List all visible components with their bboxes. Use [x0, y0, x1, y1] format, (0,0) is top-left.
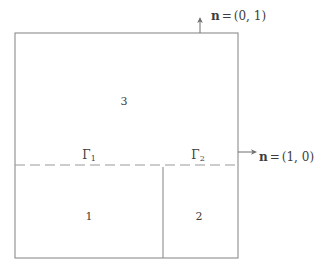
normal-vector-label-right: n=(1, 0) — [259, 151, 314, 163]
gamma-subscript: 1 — [90, 154, 95, 163]
normal-value: (1, 0) — [282, 150, 314, 164]
normal-value: (0, 1) — [234, 9, 266, 23]
region-label-3: 3 — [121, 96, 128, 107]
equals-sign: = — [220, 9, 234, 23]
normal-arrow-right — [238, 149, 257, 155]
normal-symbol: n — [259, 150, 268, 164]
outer-domain-boundary — [15, 33, 238, 258]
normal-symbol: n — [211, 9, 220, 23]
boundary-label-gamma-1: Γ1 — [82, 149, 96, 163]
region-label-1: 1 — [86, 211, 93, 222]
normal-vector-label-top: n=(0, 1) — [211, 10, 266, 22]
region-label-2: 2 — [196, 211, 203, 222]
normal-arrow-top — [197, 17, 203, 33]
equals-sign: = — [268, 150, 282, 164]
gamma-subscript: 2 — [199, 154, 204, 163]
domain-diagram — [0, 0, 323, 267]
boundary-label-gamma-2: Γ2 — [191, 149, 205, 163]
figure-container: 3 1 2 Γ1 Γ2 n=(0, 1) n=(1, 0) — [0, 0, 323, 267]
